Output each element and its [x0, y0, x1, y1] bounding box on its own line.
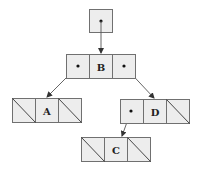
node-label: B — [97, 62, 105, 73]
tree-node-B: B — [67, 55, 136, 79]
tree-node-D: D — [121, 100, 190, 124]
tree-node-A: A — [13, 99, 82, 123]
pointer-dot-icon — [76, 64, 79, 67]
tree-node-C: C — [82, 138, 151, 162]
node-label: C — [112, 145, 120, 156]
node-label: A — [42, 106, 51, 117]
pointer-dot-icon — [129, 109, 132, 112]
tree-diagram: B A D C — [0, 0, 201, 174]
node-label: D — [151, 107, 160, 118]
pointer-dot-icon — [122, 64, 125, 67]
